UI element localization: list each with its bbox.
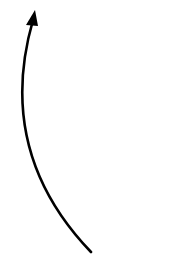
diagram-canvas xyxy=(0,0,195,263)
